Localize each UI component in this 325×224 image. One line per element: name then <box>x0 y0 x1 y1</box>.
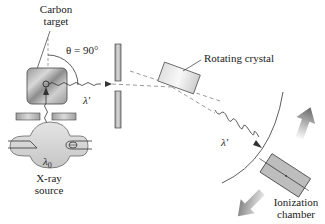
theta-label: θ = 90° <box>66 45 98 56</box>
carbon-target-label-line2: target <box>36 15 76 27</box>
diffracted-wavelength-label: λ′ <box>221 137 228 148</box>
diffracted-beam-wave <box>215 110 259 137</box>
diffracted-beam-arrowhead <box>253 140 262 148</box>
lambda-subscript: 0 <box>48 161 52 170</box>
scattered-beam-arrowhead <box>105 81 112 87</box>
incident-wavelength-label: λ0 <box>43 156 52 171</box>
ionization-chamber <box>253 149 314 200</box>
rotating-crystal <box>158 62 201 94</box>
carbon-target <box>27 68 67 104</box>
xray-source-label-line2: source <box>29 184 69 196</box>
scattered-wavelength-label: λ′ <box>83 95 90 106</box>
ionization-chamber-label-line1: Ionization <box>268 196 324 208</box>
beam-path-dashed <box>112 84 172 87</box>
arrow-up-right-icon <box>289 104 319 143</box>
xray-source-label-line1: X-ray <box>29 172 69 184</box>
rotating-crystal-label: Rotating crystal <box>204 53 274 64</box>
ionization-chamber-label-line2: chamber <box>268 208 324 220</box>
arrow-down-left-icon <box>231 185 269 223</box>
xray-source-label: X-ray source <box>29 172 69 196</box>
ionization-chamber-label: Ionization chamber <box>268 196 324 220</box>
carbon-target-label: Carbon target <box>36 3 76 27</box>
lower-left-slit <box>16 113 40 120</box>
lower-right-slit <box>52 113 76 120</box>
lower-slit <box>115 91 121 128</box>
theta-label-text: θ = 90° <box>66 44 98 56</box>
rotating-crystal-leader <box>183 60 201 71</box>
carbon-target-label-line1: Carbon <box>36 3 76 15</box>
upper-slit <box>115 44 121 81</box>
